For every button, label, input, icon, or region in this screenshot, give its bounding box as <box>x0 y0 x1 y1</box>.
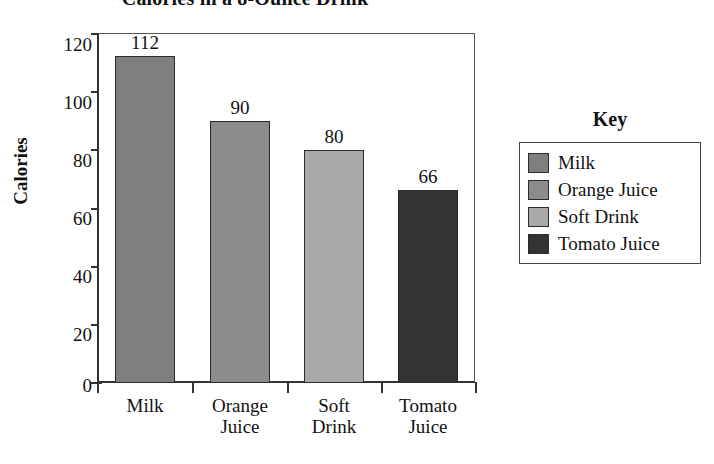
bar-value-tomato-juice: 66 <box>398 167 458 186</box>
x-tick-mark-2 <box>287 382 289 393</box>
x-tick-mark-3 <box>381 382 383 393</box>
y-tick-label-80: 80 <box>32 151 92 170</box>
legend-swatch-orange-juice <box>528 180 549 200</box>
x-cat-label-soft-drink: Soft Drink <box>298 395 370 438</box>
x-tick-mark-1 <box>192 382 194 393</box>
chart-title: Calories in a 8-Ounce Drink <box>0 0 490 10</box>
legend-label-orange-juice: Orange Juice <box>558 180 658 199</box>
y-tick-label-40: 40 <box>32 267 92 286</box>
x-cat-label-soft-drink-line1: Soft <box>298 395 370 416</box>
legend-swatch-soft-drink <box>528 207 549 227</box>
y-tick-label-120: 120 <box>32 35 92 54</box>
y-tick-label-20: 20 <box>32 325 92 344</box>
x-cat-label-milk: Milk <box>110 395 180 416</box>
bar-orange-juice[interactable] <box>210 121 270 383</box>
y-tick-label-60: 60 <box>32 209 92 228</box>
bar-milk[interactable] <box>115 56 175 383</box>
bar-value-soft-drink: 80 <box>304 127 364 146</box>
x-cat-label-orange-juice: Orange Juice <box>203 395 277 438</box>
x-cat-label-milk-line1: Milk <box>110 395 180 416</box>
legend-swatch-milk <box>528 153 549 173</box>
legend-item-tomato-juice[interactable]: Tomato Juice <box>528 230 700 257</box>
legend-item-orange-juice[interactable]: Orange Juice <box>528 176 700 203</box>
y-tick-label-100: 100 <box>32 93 92 112</box>
x-cat-label-soft-drink-line2: Drink <box>298 416 370 437</box>
x-cat-label-orange-juice-line1: Orange <box>203 395 277 416</box>
bar-value-milk: 112 <box>115 33 175 52</box>
legend-swatch-tomato-juice <box>528 234 549 254</box>
x-tick-mark-4 <box>475 382 477 393</box>
y-axis-title: Calories <box>10 111 32 231</box>
x-cat-label-tomato-juice-line1: Tomato <box>391 395 465 416</box>
y-tick-label-0: 0 <box>32 376 92 395</box>
legend-label-tomato-juice: Tomato Juice <box>558 234 660 253</box>
legend-item-milk[interactable]: Milk <box>528 149 700 176</box>
legend-label-milk: Milk <box>558 153 595 172</box>
bar-value-orange-juice: 90 <box>210 98 270 117</box>
legend-label-soft-drink: Soft Drink <box>558 207 639 226</box>
x-tick-mark-0 <box>97 382 99 393</box>
x-cat-label-orange-juice-line2: Juice <box>203 416 277 437</box>
bar-tomato-juice[interactable] <box>398 190 458 383</box>
x-cat-label-tomato-juice-line2: Juice <box>391 416 465 437</box>
legend-title: Key <box>517 108 703 131</box>
x-cat-label-tomato-juice: Tomato Juice <box>391 395 465 438</box>
legend-item-soft-drink[interactable]: Soft Drink <box>528 203 700 230</box>
legend: Milk Orange Juice Soft Drink Tomato Juic… <box>519 142 701 264</box>
bar-soft-drink[interactable] <box>304 150 364 383</box>
